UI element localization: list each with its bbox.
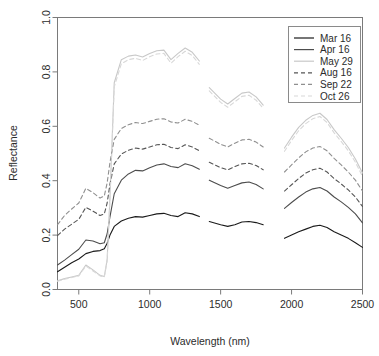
y-tick-label: 1.0 [40, 10, 52, 25]
x-tick-label: 500 [70, 298, 88, 310]
x-tick-label: 2000 [280, 298, 304, 310]
legend-label-mar-16: Mar 16 [320, 33, 352, 44]
y-tick-label: 0.2 [40, 228, 52, 243]
x-axis-title: Wavelength (nm) [170, 335, 250, 347]
x-tick-label: 1000 [138, 298, 162, 310]
y-tick-label: 0.6 [40, 119, 52, 134]
y-tick-label: 0.8 [40, 64, 52, 79]
legend-label-may-29: May 29 [320, 56, 353, 67]
y-tick-label: 0.0 [40, 282, 52, 297]
spectral-reflectance-figure: 0.00.20.40.60.81.0 5001000150020002500 R… [0, 0, 379, 356]
y-axis-title: Reflectance [7, 125, 19, 181]
plot-canvas: 0.00.20.40.60.81.0 5001000150020002500 R… [0, 0, 379, 356]
legend-label-oct-26: Oct 26 [320, 91, 350, 102]
legend-label-aug-16: Aug 16 [320, 67, 352, 78]
legend-label-sep-22: Sep 22 [320, 79, 352, 90]
x-tick-label: 2500 [351, 298, 375, 310]
y-tick-label: 0.4 [40, 173, 52, 188]
legend-label-apr-16: Apr 16 [320, 44, 350, 55]
legend: Mar 16Apr 16May 29Aug 16Sep 22Oct 26 [289, 27, 361, 103]
x-tick-label: 1500 [209, 298, 233, 310]
